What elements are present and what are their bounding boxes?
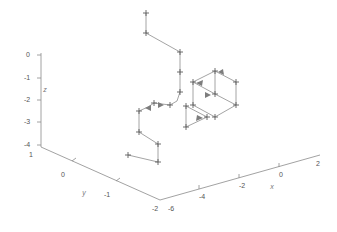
y-tick-label-0: 1 [29,151,33,158]
y-tick-label-2: -1 [104,191,110,198]
right-cluster-polyline-c [193,71,215,82]
x-tick-label-4: 2 [316,160,320,167]
z-tick-label-2: -2 [24,96,30,103]
plot-canvas: 0 -1 -2 -3 -4 1 0 -1 -2 -6 -4 -2 0 2 z y… [0,0,337,232]
z-tick-label-1: -1 [24,74,30,81]
data-series-trajectory [125,10,183,165]
x-tick-label-1: -4 [199,193,205,200]
axis-group [37,53,320,200]
x-tick-label-0: -6 [168,205,174,212]
z-axis-label: z [42,86,47,93]
y-axis-line [41,147,160,200]
x-axis-line [160,155,320,200]
x-tick-label-3: 0 [279,171,283,178]
x-axis-label: x [269,183,274,190]
trajectory-polyline [128,13,180,162]
y-tick-label-1: 0 [61,171,65,178]
z-tick-label-3: -3 [24,118,30,125]
y-axis-label: y [81,189,86,197]
plot-figure: 0 -1 -2 -3 -4 1 0 -1 -2 -6 -4 -2 0 2 z y… [0,0,337,232]
y-tick-0 [72,158,76,161]
y-tick-1 [116,178,120,181]
y-tick-label-3: -2 [152,205,158,212]
z-tick-label-4: -4 [24,141,30,148]
right-cluster-polyline-b [193,82,215,105]
lower-cluster-polyline [186,106,207,127]
tick-label-group: 0 -1 -2 -3 -4 1 0 -1 -2 -6 -4 -2 0 2 [24,51,320,212]
z-tick-label-0: 0 [26,51,30,58]
x-tick-label-2: -2 [239,182,245,189]
